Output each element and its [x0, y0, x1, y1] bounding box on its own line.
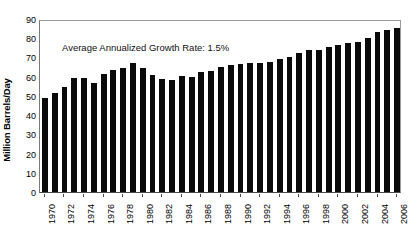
x-tick-label: 1988	[224, 204, 233, 224]
bar	[189, 77, 195, 192]
bar	[140, 68, 146, 192]
x-tick-mark	[298, 194, 299, 197]
x-axis-tick-labels: 1970197219741976197819801982198419861988…	[39, 194, 401, 250]
x-tick-label: 1970	[48, 204, 57, 224]
y-tick-label: 70	[14, 54, 36, 63]
x-tick-mark	[181, 194, 182, 197]
growth-rate-annotation: Average Annualized Growth Rate: 1.5%	[62, 42, 229, 54]
bar	[62, 87, 68, 192]
x-tick-label: 1984	[185, 204, 194, 224]
x-tick-label: 1976	[107, 204, 116, 224]
bar	[277, 59, 283, 192]
bar	[394, 28, 400, 192]
bar	[208, 71, 214, 192]
bar	[384, 30, 390, 192]
oil-consumption-bar-chart: Million Barrels/Day 0102030405060708090 …	[0, 0, 420, 250]
y-tick-label: 0	[14, 189, 36, 198]
bar	[81, 78, 87, 192]
bar	[375, 32, 381, 192]
bar	[91, 83, 97, 192]
x-tick-mark	[377, 194, 378, 197]
x-tick-label: 1992	[263, 204, 272, 224]
bar	[110, 70, 116, 192]
bar	[335, 45, 341, 192]
y-tick-label: 90	[14, 16, 36, 25]
bar	[287, 57, 293, 192]
x-tick-mark	[396, 194, 397, 197]
x-tick-mark	[142, 194, 143, 197]
bar	[228, 65, 234, 192]
plot-area: Average Annualized Growth Rate: 1.5%	[39, 20, 401, 193]
x-tick-label: 2000	[341, 204, 350, 224]
x-tick-mark	[122, 194, 123, 197]
x-tick-mark	[103, 194, 104, 197]
x-tick-mark	[318, 194, 319, 197]
y-tick-label: 50	[14, 92, 36, 101]
bar	[42, 98, 48, 192]
x-tick-label: 1998	[322, 204, 331, 224]
bar	[247, 63, 253, 192]
bar	[101, 74, 107, 192]
x-tick-label: 1996	[302, 204, 311, 224]
bar	[296, 53, 302, 192]
x-tick-label: 1974	[87, 204, 96, 224]
bar	[306, 50, 312, 192]
bar	[120, 68, 126, 192]
bar	[257, 63, 263, 192]
x-tick-label: 2006	[400, 204, 409, 224]
x-tick-mark	[83, 194, 84, 197]
bar	[52, 93, 58, 192]
x-tick-label: 1982	[165, 204, 174, 224]
x-tick-label: 2004	[381, 204, 390, 224]
x-tick-mark	[63, 194, 64, 197]
bar	[355, 42, 361, 192]
x-tick-mark	[200, 194, 201, 197]
bar	[159, 79, 165, 192]
bar	[365, 38, 371, 192]
bar	[179, 76, 185, 192]
x-tick-label: 1994	[283, 204, 292, 224]
y-tick-label: 80	[14, 35, 36, 44]
bar	[267, 62, 273, 192]
x-tick-mark	[220, 194, 221, 197]
x-tick-label: 1990	[244, 204, 253, 224]
bar	[71, 78, 77, 192]
bar	[326, 47, 332, 192]
bar	[198, 72, 204, 192]
x-tick-mark	[240, 194, 241, 197]
y-tick-label: 40	[14, 112, 36, 121]
x-tick-mark	[161, 194, 162, 197]
x-tick-label: 2002	[361, 204, 370, 224]
y-tick-label: 10	[14, 169, 36, 178]
y-axis-title: Million Barrels/Day	[0, 60, 14, 180]
x-tick-label: 1978	[126, 204, 135, 224]
x-tick-label: 1972	[67, 204, 76, 224]
bar	[316, 50, 322, 192]
y-tick-label: 60	[14, 73, 36, 82]
x-tick-mark	[259, 194, 260, 197]
x-tick-mark	[279, 194, 280, 197]
x-tick-mark	[337, 194, 338, 197]
x-tick-label: 1986	[204, 204, 213, 224]
bar	[238, 64, 244, 192]
y-tick-label: 20	[14, 150, 36, 159]
bar	[150, 75, 156, 192]
x-tick-label: 1980	[146, 204, 155, 224]
bar	[218, 67, 224, 192]
bar	[345, 43, 351, 192]
bar	[169, 80, 175, 192]
bar	[130, 63, 136, 192]
x-tick-mark	[357, 194, 358, 197]
x-tick-mark	[44, 194, 45, 197]
y-axis-tick-labels: 0102030405060708090	[14, 20, 36, 193]
y-tick-label: 30	[14, 131, 36, 140]
